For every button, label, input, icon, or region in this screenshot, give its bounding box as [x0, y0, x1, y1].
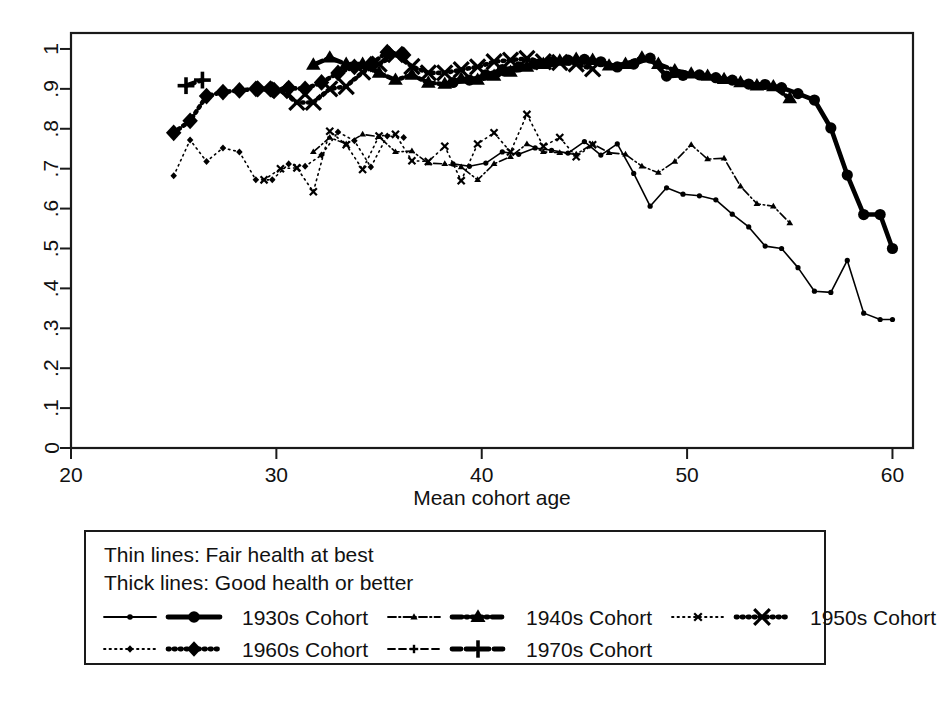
data-point-circle — [795, 265, 800, 270]
legend-note-thin: Thin lines: Fair health at best — [104, 543, 374, 566]
data-point-circle — [890, 317, 895, 322]
data-point-circle — [746, 224, 751, 229]
data-point-circle — [631, 171, 636, 176]
y-tick-label: .7 — [40, 160, 63, 178]
data-point-circle — [127, 614, 133, 620]
x-tick-label: 40 — [470, 463, 493, 486]
data-point-circle — [858, 209, 869, 220]
data-point-circle — [615, 141, 620, 146]
figure-container: 0.1.2.3.4.5.6.7.8.91 2030405060 Mean coh… — [0, 0, 937, 704]
x-tick-label: 50 — [675, 463, 698, 486]
data-point-circle — [697, 193, 702, 198]
legend: Thin lines: Fair health at best Thick li… — [85, 531, 936, 664]
data-point-circle — [845, 258, 850, 263]
x-axis-title: Mean cohort age — [413, 486, 571, 509]
y-tick-label: 0 — [40, 442, 63, 454]
data-point-circle — [664, 185, 669, 190]
data-point-circle — [188, 611, 200, 623]
data-point-circle — [861, 311, 866, 316]
cohort-health-line-chart: 0.1.2.3.4.5.6.7.8.91 2030405060 Mean coh… — [0, 0, 937, 704]
data-point-circle — [875, 209, 886, 220]
data-point-circle — [779, 246, 784, 251]
y-tick-label: .8 — [40, 120, 63, 138]
y-tick-label: .2 — [40, 359, 63, 377]
legend-label: 1940s Cohort — [526, 606, 652, 629]
data-point-circle — [887, 243, 898, 254]
x-tick-label: 30 — [265, 463, 288, 486]
y-tick-label: .9 — [40, 80, 63, 98]
data-point-circle — [809, 94, 820, 105]
y-tick-label: .1 — [40, 399, 63, 417]
y-tick-label: 1 — [40, 43, 63, 55]
data-point-circle — [598, 153, 603, 158]
legend-note-thick: Thick lines: Good health or better — [104, 571, 413, 594]
x-tick-label: 20 — [59, 463, 82, 486]
y-tick-label: .5 — [40, 240, 63, 258]
x-tick-label: 60 — [881, 463, 904, 486]
data-point-circle — [878, 317, 883, 322]
data-point-circle — [730, 212, 735, 217]
data-point-circle — [648, 204, 653, 209]
legend-label: 1970s Cohort — [526, 638, 652, 661]
legend-label: 1930s Cohort — [242, 606, 368, 629]
data-point-circle — [792, 88, 803, 99]
data-point-circle — [842, 169, 853, 180]
legend-label: 1950s Cohort — [810, 606, 936, 629]
data-point-circle — [825, 122, 836, 133]
y-tick-label: .6 — [40, 200, 63, 218]
data-point-circle — [500, 149, 505, 154]
y-tick-label: .4 — [40, 279, 63, 297]
data-point-circle — [828, 290, 833, 295]
data-point-circle — [763, 243, 768, 248]
data-point-circle — [812, 289, 817, 294]
data-point-circle — [680, 192, 685, 197]
legend-label: 1960s Cohort — [242, 638, 368, 661]
data-point-circle — [713, 197, 718, 202]
data-point-circle — [483, 160, 488, 165]
data-point-circle — [582, 139, 587, 144]
y-tick-label: .3 — [40, 320, 63, 338]
